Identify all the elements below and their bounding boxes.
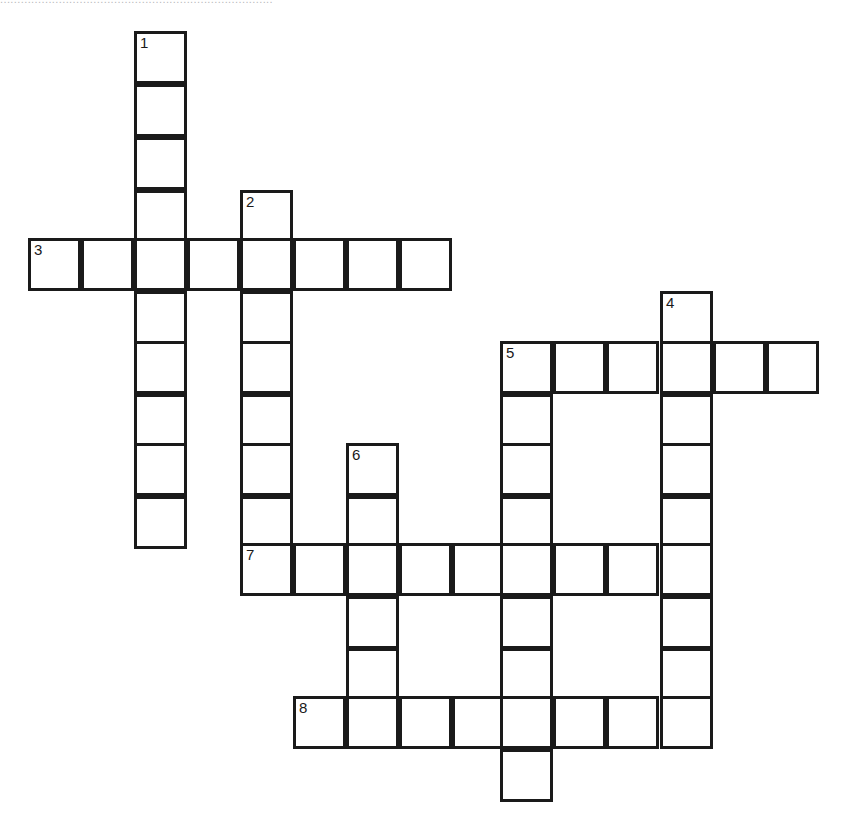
crossword-grid: 12345678	[0, 0, 859, 818]
crossword-cell[interactable]	[713, 341, 766, 394]
crossword-cell-numbered-2[interactable]: 2	[240, 190, 293, 243]
clue-number-8: 8	[299, 699, 307, 716]
crossword-cell[interactable]	[346, 496, 399, 549]
crossword-cell[interactable]	[500, 749, 553, 802]
crossword-cell[interactable]	[500, 443, 553, 496]
crossword-cell[interactable]	[606, 543, 659, 596]
crossword-cell[interactable]	[346, 238, 399, 291]
crossword-cell[interactable]	[293, 238, 346, 291]
crossword-cell-numbered-5[interactable]: 5	[500, 341, 553, 394]
crossword-cell[interactable]	[134, 238, 187, 291]
crossword-cell[interactable]	[500, 496, 553, 549]
crossword-cell[interactable]	[660, 596, 713, 649]
crossword-cell[interactable]	[500, 596, 553, 649]
crossword-cell-numbered-7[interactable]: 7	[240, 543, 293, 596]
clue-number-5: 5	[506, 344, 514, 361]
crossword-cell[interactable]	[346, 596, 399, 649]
crossword-cell-numbered-1[interactable]: 1	[134, 31, 187, 84]
crossword-cell[interactable]	[660, 543, 713, 596]
crossword-cell[interactable]	[500, 696, 553, 749]
crossword-cell[interactable]	[553, 696, 606, 749]
crossword-cell[interactable]	[134, 190, 187, 243]
crossword-cell[interactable]	[240, 341, 293, 394]
crossword-cell[interactable]	[399, 543, 452, 596]
crossword-cell[interactable]	[346, 543, 399, 596]
crossword-cell[interactable]	[660, 648, 713, 701]
crossword-cell-numbered-6[interactable]: 6	[346, 443, 399, 496]
crossword-cell[interactable]	[500, 648, 553, 701]
clue-number-6: 6	[352, 446, 360, 463]
crossword-cell[interactable]	[500, 543, 553, 596]
crossword-cell-numbered-4[interactable]: 4	[660, 291, 713, 344]
crossword-cell[interactable]	[660, 696, 713, 749]
crossword-cell[interactable]	[500, 394, 553, 447]
clue-number-1: 1	[140, 34, 148, 51]
crossword-cell[interactable]	[452, 696, 505, 749]
crossword-cell[interactable]	[293, 543, 346, 596]
crossword-cell[interactable]	[452, 543, 505, 596]
crossword-cell[interactable]	[399, 238, 452, 291]
crossword-cell[interactable]	[134, 341, 187, 394]
crossword-cell[interactable]	[553, 341, 606, 394]
crossword-cell[interactable]	[553, 543, 606, 596]
crossword-cell[interactable]	[240, 394, 293, 447]
crossword-cell-numbered-3[interactable]: 3	[28, 238, 81, 291]
crossword-cell[interactable]	[660, 443, 713, 496]
clue-number-2: 2	[246, 193, 254, 210]
crossword-cell[interactable]	[346, 696, 399, 749]
crossword-cell[interactable]	[660, 394, 713, 447]
crossword-cell[interactable]	[134, 137, 187, 190]
crossword-cell[interactable]	[187, 238, 240, 291]
clue-number-7: 7	[246, 546, 254, 563]
crossword-cell[interactable]	[134, 496, 187, 549]
crossword-cell[interactable]	[399, 696, 452, 749]
crossword-cell[interactable]	[134, 443, 187, 496]
crossword-puzzle: ........................................…	[0, 0, 859, 818]
crossword-cell[interactable]	[134, 394, 187, 447]
crossword-cell[interactable]	[766, 341, 819, 394]
crossword-cell[interactable]	[240, 443, 293, 496]
crossword-cell[interactable]	[346, 648, 399, 701]
crossword-cell[interactable]	[606, 696, 659, 749]
clue-number-3: 3	[34, 241, 42, 258]
crossword-cell[interactable]	[134, 84, 187, 137]
crossword-cell[interactable]	[660, 341, 713, 394]
crossword-cell[interactable]	[134, 291, 187, 344]
crossword-cell[interactable]	[240, 496, 293, 549]
crossword-cell[interactable]	[240, 291, 293, 344]
crossword-cell-numbered-8[interactable]: 8	[293, 696, 346, 749]
crossword-cell[interactable]	[240, 238, 293, 291]
crossword-cell[interactable]	[606, 341, 659, 394]
crossword-cell[interactable]	[81, 238, 134, 291]
clue-number-4: 4	[666, 294, 674, 311]
crossword-cell[interactable]	[660, 496, 713, 549]
